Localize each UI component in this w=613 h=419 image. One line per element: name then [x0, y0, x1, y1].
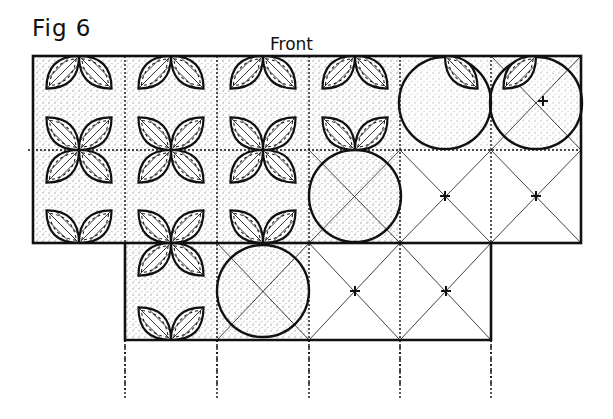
quilt-diagram	[0, 0, 613, 419]
stipple-shading	[33, 56, 581, 340]
seam-extensions	[125, 340, 491, 392]
